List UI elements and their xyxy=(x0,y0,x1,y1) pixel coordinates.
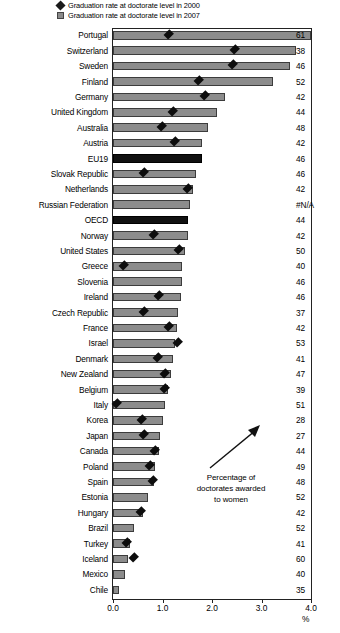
category-label-canada: Canada xyxy=(0,446,108,456)
bar-2007 xyxy=(113,555,128,564)
square-swatch-icon xyxy=(57,12,64,19)
annotation-line-3: to women xyxy=(172,494,290,505)
data-label-value: 52 xyxy=(296,492,336,502)
category-label-united-kingdom: United Kingdom xyxy=(0,107,108,117)
chart-row: Slovenia46 xyxy=(0,274,340,289)
data-label-value: 42 xyxy=(296,231,336,241)
category-label-korea: Korea xyxy=(0,415,108,425)
chart-row: Greece40 xyxy=(0,259,340,274)
chart-row: United Kingdom44 xyxy=(0,105,340,120)
data-label-value: 48 xyxy=(296,477,336,487)
category-label-new-zealand: New Zealand xyxy=(0,369,108,379)
category-label-czech-republic: Czech Republic xyxy=(0,308,108,318)
chart-row: Portugal61 xyxy=(0,28,340,43)
category-label-oecd: OECD xyxy=(0,215,108,225)
category-label-poland: Poland xyxy=(0,462,108,472)
category-label-austria: Austria xyxy=(0,138,108,148)
chart-row: Chile35 xyxy=(0,583,340,598)
category-label-iceland: Iceland xyxy=(0,554,108,564)
category-label-italy: Italy xyxy=(0,400,108,410)
chart-row: Canada44 xyxy=(0,444,340,459)
chart-row: Sweden46 xyxy=(0,59,340,74)
category-label-mexico: Mexico xyxy=(0,569,108,579)
category-label-finland: Finland xyxy=(0,77,108,87)
category-label-greece: Greece xyxy=(0,261,108,271)
chart-legend: Graduation rate at doctorate level in 20… xyxy=(56,1,200,20)
category-label-estonia: Estonia xyxy=(0,492,108,502)
axis-tick-label: 0.0 xyxy=(107,603,119,614)
data-label-value: 49 xyxy=(296,462,336,472)
category-label-slovenia: Slovenia xyxy=(0,277,108,287)
chart-row: Switzerland38 xyxy=(0,43,340,58)
data-label-value: 52 xyxy=(296,77,336,87)
bar-2007 xyxy=(113,586,119,595)
annotation-line-1: Percentage of xyxy=(172,472,290,483)
x-axis: 0.01.02.03.04.0 xyxy=(112,599,312,629)
bar-2007 xyxy=(113,31,311,40)
chart-row: Israel53 xyxy=(0,336,340,351)
category-label-sweden: Sweden xyxy=(0,61,108,71)
category-label-slovak-republic: Slovak Republic xyxy=(0,169,108,179)
data-label-value: 28 xyxy=(296,415,336,425)
data-label-value: 44 xyxy=(296,446,336,456)
data-label-value: 39 xyxy=(296,385,336,395)
data-label-value: 50 xyxy=(296,246,336,256)
diamond-marker-icon xyxy=(55,0,65,10)
axis-tick-label: 3.0 xyxy=(256,603,268,614)
data-label-value: 46 xyxy=(296,61,336,71)
bar-2007 xyxy=(113,46,296,55)
category-label-switzerland: Switzerland xyxy=(0,46,108,56)
chart-row: Czech Republic37 xyxy=(0,305,340,320)
data-label-value: 46 xyxy=(296,154,336,164)
data-label-value: 41 xyxy=(296,354,336,364)
data-label-value: 42 xyxy=(296,138,336,148)
chart-row: Germany42 xyxy=(0,90,340,105)
data-label-value: 48 xyxy=(296,123,336,133)
chart-row: EU1946 xyxy=(0,151,340,166)
axis-tick-label: 4.0 xyxy=(305,603,317,614)
chart-row: Turkey41 xyxy=(0,536,340,551)
chart-row: New Zealand47 xyxy=(0,367,340,382)
chart-row: Norway42 xyxy=(0,228,340,243)
chart-row: Russian Federation#N/A xyxy=(0,197,340,212)
data-label-value: 46 xyxy=(296,292,336,302)
chart-row: Slovak Republic46 xyxy=(0,167,340,182)
legend-item-2000: Graduation rate at doctorate level in 20… xyxy=(56,1,200,10)
chart-rows: Portugal61Switzerland38Sweden46Finland52… xyxy=(0,28,340,598)
marker-2000 xyxy=(128,553,139,564)
category-label-united-states: United States xyxy=(0,246,108,256)
chart-annotation: Percentage of doctorates awarded to wome… xyxy=(172,472,290,505)
bar-2007 xyxy=(113,293,181,302)
data-label-value: 42 xyxy=(296,184,336,194)
chart-row: Australia48 xyxy=(0,120,340,135)
x-axis-unit-label: % xyxy=(302,614,309,625)
category-label-ireland: Ireland xyxy=(0,292,108,302)
bar-2007 xyxy=(113,355,173,364)
data-label-value: 40 xyxy=(296,569,336,579)
axis-tick-label: 2.0 xyxy=(206,603,218,614)
chart-row: Ireland46 xyxy=(0,290,340,305)
legend-label-2000: Graduation rate at doctorate level in 20… xyxy=(68,2,200,10)
category-label-spain: Spain xyxy=(0,477,108,487)
bar-2007 xyxy=(113,108,217,117)
bar-2007 xyxy=(113,154,202,163)
chart-row: Hungary42 xyxy=(0,506,340,521)
chart-row: Iceland60 xyxy=(0,552,340,567)
legend-label-2007: Graduation rate at doctorate level in 20… xyxy=(68,12,200,20)
category-label-hungary: Hungary xyxy=(0,508,108,518)
chart-row: Korea28 xyxy=(0,413,340,428)
data-label-value: 46 xyxy=(296,277,336,287)
data-label-value: 44 xyxy=(296,215,336,225)
data-label-value: 42 xyxy=(296,323,336,333)
category-label-turkey: Turkey xyxy=(0,539,108,549)
category-label-chile: Chile xyxy=(0,585,108,595)
data-label-value: 53 xyxy=(296,338,336,348)
bar-2007 xyxy=(113,277,182,286)
chart-row: Netherlands42 xyxy=(0,182,340,197)
chart-row: Italy51 xyxy=(0,398,340,413)
data-label-value: 60 xyxy=(296,554,336,564)
data-label-value: 51 xyxy=(296,400,336,410)
graduation-rate-chart: Graduation rate at doctorate level in 20… xyxy=(0,0,340,633)
legend-item-2007: Graduation rate at doctorate level in 20… xyxy=(56,11,200,20)
bar-2007 xyxy=(113,216,188,225)
